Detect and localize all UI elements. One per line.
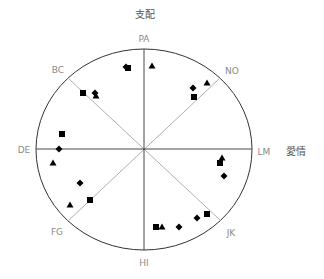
octant-label-pa: PA xyxy=(138,34,150,44)
square-marker xyxy=(153,224,159,230)
triangle-marker xyxy=(219,155,226,161)
square-marker xyxy=(217,160,223,166)
triangle-marker xyxy=(67,202,74,208)
diamond-marker xyxy=(221,173,228,180)
octant-label-hi: HI xyxy=(139,258,148,268)
diamond-marker xyxy=(176,224,183,231)
square-marker xyxy=(204,211,210,217)
square-marker xyxy=(87,197,93,203)
vertical-axis-title: 支配 xyxy=(135,9,155,20)
triangle-marker xyxy=(159,224,166,230)
triangle-marker xyxy=(50,160,57,166)
diamond-marker xyxy=(56,146,63,153)
data-markers xyxy=(50,63,228,231)
octant-label-jk: JK xyxy=(226,228,237,238)
circumplex-chart: 支配 愛情 PA NO LM JK HI FG DE BC xyxy=(0,0,324,279)
square-marker xyxy=(59,131,65,137)
octant-label-lm: LM xyxy=(258,147,271,157)
octant-label-no: NO xyxy=(225,66,239,76)
octant-label-de: DE xyxy=(18,145,31,155)
diamond-marker xyxy=(194,215,201,222)
triangle-marker xyxy=(204,80,211,86)
diamond-marker xyxy=(190,85,197,92)
diamond-marker xyxy=(77,180,84,187)
square-marker xyxy=(80,90,86,96)
octant-label-bc: BC xyxy=(52,65,64,75)
square-marker xyxy=(191,94,197,100)
octant-label-fg: FG xyxy=(51,227,63,237)
horizontal-axis-title: 愛情 xyxy=(286,145,306,157)
triangle-marker xyxy=(149,63,156,69)
